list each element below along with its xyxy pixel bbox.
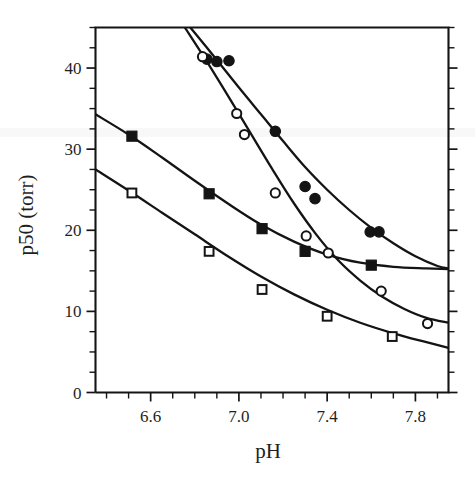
data-point-filled-circle xyxy=(374,227,384,237)
scan-artifact-band xyxy=(0,128,475,137)
data-point-open-square xyxy=(323,312,332,321)
data-point-filled-circle xyxy=(212,56,222,66)
data-point-filled-square xyxy=(300,246,310,256)
x-axis-title: pH xyxy=(255,439,281,463)
data-point-filled-circle xyxy=(300,181,310,191)
data-point-filled-square xyxy=(257,224,267,234)
y-tick-label: 0 xyxy=(73,384,82,403)
data-point-open-square xyxy=(205,247,214,256)
y-tick-label: 10 xyxy=(65,302,82,321)
data-point-open-circle xyxy=(198,52,207,61)
y-tick-label: 40 xyxy=(65,59,82,78)
data-point-filled-square xyxy=(127,131,137,141)
data-point-filled-square xyxy=(204,189,214,199)
x-tick-label: 6.6 xyxy=(140,407,161,426)
data-point-open-square xyxy=(258,285,267,294)
figure-container: 010203040 6.67.07.47.8 pH p50 (torr) xyxy=(0,0,475,481)
data-point-filled-circle xyxy=(310,193,320,203)
data-point-open-square xyxy=(388,332,397,341)
x-tick-label: 7.8 xyxy=(405,407,426,426)
data-point-filled-circle xyxy=(224,56,234,66)
data-point-open-circle xyxy=(324,248,333,257)
data-point-open-circle xyxy=(423,319,432,328)
data-point-open-circle xyxy=(377,287,386,296)
data-point-filled-circle xyxy=(270,126,280,136)
chart-canvas: 010203040 6.67.07.47.8 pH p50 (torr) xyxy=(0,0,475,481)
data-point-open-circle xyxy=(271,188,280,197)
data-point-open-circle xyxy=(232,109,241,118)
y-tick-label: 20 xyxy=(65,221,82,240)
data-point-filled-square xyxy=(366,260,376,270)
x-tick-label: 7.0 xyxy=(228,407,249,426)
data-point-open-square xyxy=(128,189,137,198)
x-tick-label: 7.4 xyxy=(317,407,339,426)
data-point-open-circle xyxy=(302,231,311,240)
data-point-open-circle xyxy=(240,130,249,139)
y-axis-title: p50 (torr) xyxy=(14,174,38,255)
y-tick-label: 30 xyxy=(65,140,82,159)
